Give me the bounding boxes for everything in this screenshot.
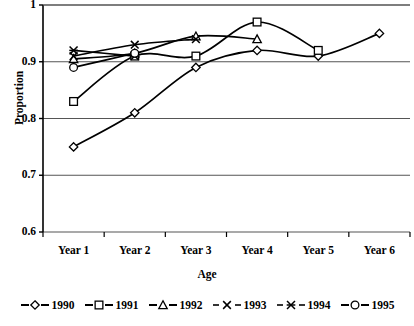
marker-diamond-icon — [253, 46, 261, 54]
marker-diamond-icon — [69, 143, 77, 151]
marker-diamond-icon — [192, 63, 200, 71]
marker-square-icon — [70, 98, 78, 106]
legend-label: 1991 — [116, 299, 139, 311]
legend-marker-triangle — [148, 298, 178, 312]
legend-marker-square — [84, 298, 114, 312]
legend-item-1993[interactable]: 1993 — [212, 298, 267, 312]
legend-marker-asterisk — [276, 298, 306, 312]
legend-item-1994[interactable]: 1994 — [276, 298, 331, 312]
marker-square-icon — [253, 18, 261, 26]
marker-square-icon — [95, 301, 103, 309]
legend-label: 1994 — [308, 299, 331, 311]
marker-circle-icon — [131, 49, 139, 57]
legend-label: 1992 — [180, 299, 203, 311]
legend-item-1991[interactable]: 1991 — [84, 298, 139, 312]
line-chart: Proportion Age 0.60.70.80.91 Year 1Year … — [0, 0, 414, 326]
marker-circle-icon — [351, 301, 359, 309]
legend-label: 1995 — [372, 299, 395, 311]
legend-marker-cross-x — [212, 298, 242, 312]
marker-diamond-icon — [375, 29, 383, 37]
legend-item-1992[interactable]: 1992 — [148, 298, 203, 312]
legend-item-1995[interactable]: 1995 — [340, 298, 395, 312]
marker-circle-icon — [70, 64, 78, 72]
marker-diamond-icon — [30, 301, 38, 309]
marker-triangle-icon — [158, 301, 166, 309]
marker-square-icon — [314, 47, 322, 55]
legend-label: 1990 — [52, 299, 75, 311]
legend-label: 1993 — [244, 299, 267, 311]
plot-area — [0, 0, 414, 326]
chart-legend: 199019911992199319941995 — [0, 298, 414, 312]
legend-marker-diamond — [20, 298, 50, 312]
legend-item-1990[interactable]: 1990 — [20, 298, 75, 312]
legend-marker-circle — [340, 298, 370, 312]
marker-square-icon — [192, 52, 200, 60]
series-line-1990 — [74, 33, 380, 147]
